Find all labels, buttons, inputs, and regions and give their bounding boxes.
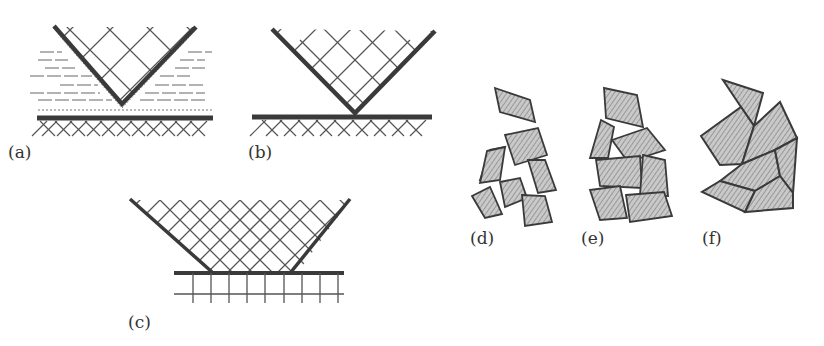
diagram-canvas bbox=[0, 0, 824, 346]
panel-e bbox=[590, 88, 672, 222]
panel-c bbox=[60, 180, 420, 303]
label-f: (f) bbox=[702, 228, 722, 248]
label-a: (a) bbox=[8, 142, 31, 162]
panel-b bbox=[240, 0, 470, 136]
label-d: (d) bbox=[470, 228, 494, 248]
panel-d bbox=[472, 88, 556, 226]
panel-f bbox=[701, 80, 797, 212]
label-b: (b) bbox=[248, 142, 272, 162]
label-e: (e) bbox=[581, 228, 604, 248]
panel-a bbox=[20, 0, 240, 160]
label-c: (c) bbox=[128, 312, 151, 332]
figure: (a) (b) (c) (d) (e) (f) bbox=[0, 0, 824, 346]
